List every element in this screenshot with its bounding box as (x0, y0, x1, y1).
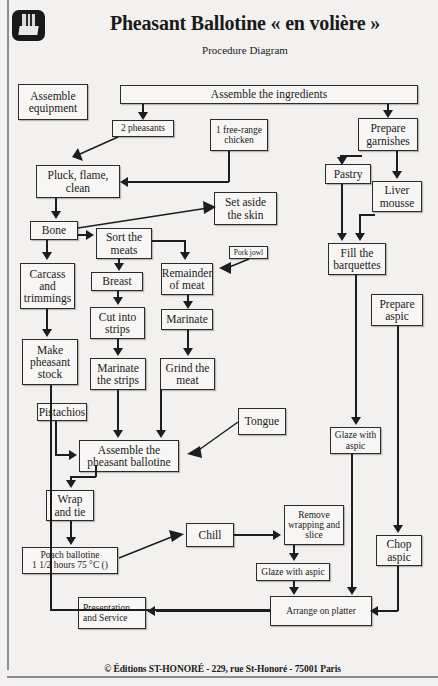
edge-stock-down (50, 385, 52, 610)
page-subtitle: Procedure Diagram (60, 44, 430, 56)
node-glaze-with-aspic-barquettes: Glaze with aspic (330, 427, 381, 454)
edge-marinate-strips-to-assemble (117, 390, 119, 432)
arrowhead-wrap-and-tie (66, 480, 76, 488)
arrowhead-assemble-from-strips (113, 430, 123, 438)
node-cut-into-strips: Cut into strips (90, 307, 145, 339)
arrowhead-liver-mousse (392, 171, 402, 179)
node-assemble-the-pheasant-ballotine: Assemble the pheasant ballotine (79, 440, 179, 472)
node-make-pheasant-stock: Make pheasant stock (22, 339, 78, 385)
arrowhead-glaze-slices (289, 553, 299, 561)
edge-liver-left (359, 214, 375, 216)
edge-pastry-to-fill (341, 184, 343, 235)
procedure-diagram-page: Pheasant Ballotine « en volière » Proced… (0, 0, 438, 686)
node-chop-aspic: Chop aspic (376, 535, 422, 566)
arrowhead-fill-from-liver (355, 233, 365, 241)
node-remove-wrapping-and-slice: Remove wrapping and slice (284, 505, 344, 545)
node-poach-ballotine: Poach ballotine 1 1/2 hours 75 °C () (22, 547, 118, 574)
node-breast: Breast (91, 272, 143, 291)
arrowhead-breast (114, 263, 124, 271)
footer-credit: © Éditions ST-HONORÉ - 229, rue St-Honor… (10, 664, 435, 674)
edge-prepare-aspic-to-chop (397, 326, 399, 529)
node-pluck-flame-clean: Pluck, flame, clean (36, 165, 120, 198)
node-wrap-and-tie: Wrap and tie (46, 490, 94, 521)
arrowhead-glaze-barquettes (351, 417, 361, 425)
arrowhead-make-stock (42, 329, 52, 337)
arrowhead-assemble-from-grind (156, 430, 166, 438)
arrowhead-platter-from-glaze-slices (289, 587, 299, 595)
edge-grind-to-assemble (160, 390, 162, 432)
arrowhead-assemble-from-pistachios (69, 450, 77, 460)
poach-ballotine-line-1: Poach ballotine (25, 550, 115, 560)
node-remainder-of-meat: Remainder of meat (161, 263, 213, 295)
edge-assemble-left (70, 476, 96, 478)
edge-chill-to-remove (234, 534, 274, 536)
node-presentation-and-service: Presentation and Service (78, 597, 146, 629)
edge-carcass-to-stock (46, 309, 48, 331)
node-assemble-equipment: Assemble equipment (18, 84, 88, 120)
node-arrange-on-platter: Arrange on platter (270, 596, 372, 626)
arrowhead-platter-from-barquettes (347, 587, 357, 595)
arrowhead-marinate (183, 301, 193, 309)
edge-garnishes-to-liver (396, 151, 398, 173)
arrowhead-sort (86, 230, 94, 240)
edge-sort-right (152, 240, 185, 242)
edge-bone-to-skin (76, 198, 218, 232)
node-free-range-chicken: 1 free-range chicken (210, 119, 268, 151)
arrowhead-pastry (337, 157, 347, 165)
node-two-pheasants: 2 pheasants (112, 120, 174, 137)
node-tongue: Tongue (238, 408, 286, 435)
edge-chop-left (378, 610, 398, 612)
arrowhead-poach (66, 537, 76, 545)
arrowhead-cut-into-strips (113, 297, 123, 305)
page-title: Pheasant Ballotine « en volière » (60, 12, 430, 35)
arrowhead-fill-from-pastry (337, 233, 347, 241)
edge-tongue-to-assemble (178, 420, 242, 460)
edge-pistachios-down (55, 421, 57, 455)
node-bone: Bone (30, 221, 78, 240)
arrowhead-remainder (180, 252, 190, 260)
edge-pork-jowl-to-remainder (213, 256, 253, 274)
edge-platter-to-presentation (156, 610, 271, 612)
node-prepare-aspic: Prepare aspic (371, 294, 423, 326)
arrowhead-presentation (147, 606, 155, 616)
arrowhead-remove-wrapping (273, 530, 281, 540)
arrowhead-bone (51, 211, 61, 219)
edge-chicken-left (128, 181, 229, 183)
node-grind-the-meat: Grind the meat (160, 358, 215, 390)
edge-fill-to-glaze (355, 275, 357, 422)
node-sort-the-meats: Sort the meats (96, 228, 152, 259)
arrowhead-chop-aspic (393, 525, 403, 533)
poach-ballotine-line-2: 1 1/2 hours 75 °C () (25, 560, 115, 570)
node-pistachios: Pistachios (37, 403, 87, 421)
edge-liver-down (359, 214, 361, 235)
chef-logo-icon (12, 10, 45, 41)
edge-chicken-down (228, 151, 230, 182)
node-carcass-and-trimmings: Carcass and trimmings (20, 263, 75, 309)
node-glaze-with-aspic-slices: Glaze with aspic (256, 563, 330, 581)
arrowhead-grind (183, 348, 193, 356)
arrowhead-carcass (42, 252, 52, 260)
page-border-bottom (7, 676, 438, 678)
node-marinate-the-strips: Marinate the strips (90, 358, 146, 390)
arrowhead-pheasants (138, 112, 148, 120)
arrowhead-platter-from-chop (370, 606, 378, 616)
arrowhead-pluck-from-chicken (120, 177, 128, 187)
edge-marinate-to-grind (187, 330, 189, 350)
node-liver-mousse: Liver mousse (372, 181, 422, 212)
node-marinate: Marinate (161, 309, 213, 330)
node-assemble-ingredients: Assemble the ingredients (120, 85, 418, 104)
edge-poach-to-chill (116, 528, 190, 562)
edge-pheasants-to-pluck (70, 136, 120, 166)
node-pastry: Pastry (325, 164, 371, 184)
node-prepare-garnishes: Prepare garnishes (358, 118, 418, 151)
node-set-aside-the-skin: Set aside the skin (214, 192, 277, 225)
node-chill: Chill (186, 523, 234, 547)
edge-glaze-barquettes-to-platter (351, 454, 353, 589)
node-fill-the-barquettes: Fill the barquettes (328, 243, 386, 275)
edge-chop-down (397, 566, 399, 611)
arrowhead-marinate-strips (113, 348, 123, 356)
arrowhead-garnishes (383, 110, 393, 118)
page-border-left (7, 0, 9, 670)
